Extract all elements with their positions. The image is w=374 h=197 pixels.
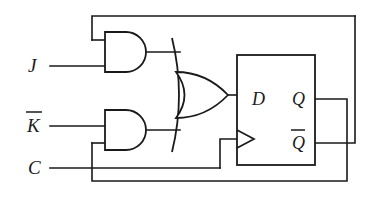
- and-gate-bottom: [105, 110, 146, 150]
- wire-c-to-clock: [220, 139, 237, 168]
- label-j-text: J: [28, 55, 38, 76]
- wire-qbar-riser: [315, 16, 355, 143]
- and-gate-top: [105, 32, 146, 72]
- jk-flip-flop-schematic: J K C: [0, 0, 374, 197]
- input-label-j: J: [28, 55, 38, 76]
- input-label-c: C: [28, 157, 41, 178]
- label-k-text: K: [26, 115, 41, 136]
- label-c-text: C: [28, 157, 41, 178]
- pin-label-q: Q: [292, 89, 305, 109]
- input-label-k-bar: K: [26, 112, 42, 136]
- or-gate: [176, 72, 228, 118]
- pin-label-d: D: [251, 89, 265, 109]
- or-gate-back-arc: [172, 38, 179, 152]
- circuit-diagram: J K C: [0, 0, 374, 197]
- pin-label-qbar: Q: [292, 133, 305, 153]
